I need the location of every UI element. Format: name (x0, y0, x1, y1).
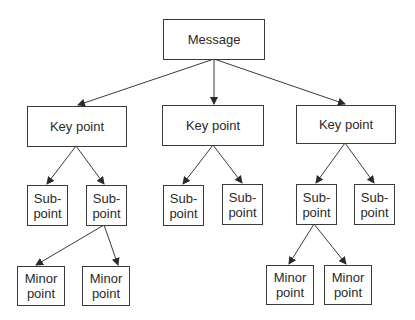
edge-s5-m4 (314, 224, 346, 264)
tree-diagram: Message Key point Key point Key point Su… (0, 0, 415, 320)
node-label: Minor point (274, 270, 307, 300)
node-minor-point-2: Minor point (82, 266, 130, 306)
node-label: Sub- point (228, 190, 256, 220)
edge-k1-s2 (76, 146, 104, 184)
edge-k2-s4 (213, 145, 242, 183)
node-label: Sub- point (360, 190, 388, 220)
node-sub-point-2: Sub- point (86, 185, 127, 226)
node-sub-point-1: Sub- point (27, 185, 68, 226)
node-label: Sub- point (302, 190, 330, 220)
edge-s5-m3 (289, 224, 314, 264)
edge-k3-s6 (345, 143, 374, 183)
node-sub-point-6: Sub- point (354, 184, 395, 225)
node-sub-point-3: Sub- point (163, 185, 204, 226)
node-key-point-3: Key point (296, 105, 396, 144)
edge-root-k1 (78, 59, 214, 105)
node-key-point-1: Key point (27, 106, 127, 147)
edge-s2-m2 (104, 225, 118, 265)
node-minor-point-4: Minor point (324, 265, 372, 305)
node-label: Minor point (25, 271, 58, 301)
node-label: Sub- point (92, 191, 120, 221)
node-label: Key point (319, 117, 373, 132)
node-sub-point-4: Sub- point (222, 184, 263, 225)
node-label: Key point (186, 118, 240, 133)
node-message: Message (163, 19, 265, 60)
edge-root-k3 (214, 59, 345, 104)
edge-k1-s1 (47, 146, 76, 184)
edge-s2-m1 (36, 225, 104, 265)
node-label: Sub- point (33, 191, 61, 221)
node-key-point-2: Key point (162, 105, 264, 146)
node-label: Minor point (332, 270, 365, 300)
node-sub-point-5: Sub- point (296, 184, 337, 225)
node-minor-point-3: Minor point (266, 265, 314, 305)
node-label: Message (188, 32, 241, 47)
edge-k2-s3 (183, 145, 213, 184)
edge-k3-s5 (316, 143, 345, 183)
node-minor-point-1: Minor point (17, 266, 65, 306)
node-label: Minor point (90, 271, 123, 301)
node-label: Key point (50, 119, 104, 134)
node-label: Sub- point (169, 191, 197, 221)
